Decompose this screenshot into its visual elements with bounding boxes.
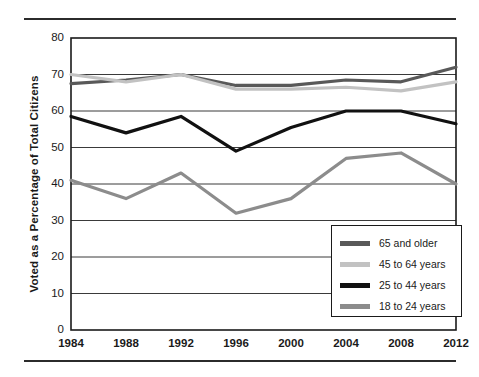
chart-legend: 65 and older45 to 64 years25 to 44 years… [331,225,462,317]
x-tick-label: 1984 [48,337,94,349]
legend-swatch-18-to-24-years [340,304,370,309]
x-tick-label: 2000 [268,337,314,349]
legend-item-label: 18 to 24 years [379,300,446,312]
x-tick-label: 2012 [433,337,479,349]
legend-item: 18 to 24 years [340,299,446,313]
legend-swatch-45-to-64-years [340,262,370,267]
x-tick-label: 1988 [103,337,149,349]
figure-container: Voted as a Percentage of Total Citizens … [0,0,479,377]
legend-item-label: 65 and older [379,237,437,249]
legend-item-label: 45 to 64 years [379,258,446,270]
series-line-25-to-44-years [71,111,456,151]
series-line-18-to-24-years [71,153,456,213]
x-tick-label: 2004 [323,337,369,349]
legend-item: 65 and older [340,236,437,250]
y-tick-label: 70 [38,68,64,80]
legend-item: 25 to 44 years [340,278,446,292]
y-tick-label: 40 [38,177,64,189]
y-tick-label: 50 [38,141,64,153]
legend-swatch-65-and-older [340,241,370,246]
legend-swatch-25-to-44-years [340,283,370,288]
y-tick-label: 60 [38,104,64,116]
y-tick-label: 20 [38,250,64,262]
y-tick-label: 30 [38,214,64,226]
y-tick-label: 0 [38,323,64,335]
line-chart [0,0,479,377]
legend-item: 45 to 64 years [340,257,446,271]
legend-item-label: 25 to 44 years [379,279,446,291]
x-tick-label: 2008 [378,337,424,349]
y-tick-label: 80 [38,31,64,43]
x-tick-label: 1996 [213,337,259,349]
series-group [71,67,456,213]
chart-plot-area [0,0,479,377]
y-tick-label: 10 [38,287,64,299]
x-tick-label: 1992 [158,337,204,349]
